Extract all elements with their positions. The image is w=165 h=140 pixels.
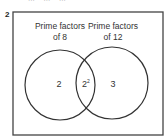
venn-diagram: Prime factors of 8 Prime factors of 12 2… [0, 0, 165, 140]
intersection-value: 22 [82, 78, 90, 89]
region-12-only-value: 3 [110, 79, 115, 89]
region-8-only-value: 2 [56, 79, 61, 89]
set-label-12-line2: of 12 [104, 32, 123, 42]
set-label-12-line1: Prime factors [88, 21, 138, 31]
set-label-8-line1: Prime factors [35, 21, 85, 31]
set-label-8-line2: of 8 [53, 32, 67, 42]
